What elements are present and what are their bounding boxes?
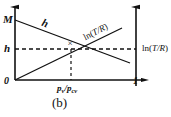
x-tick-denominator-subscript: cv <box>71 87 77 94</box>
plot-canvas <box>0 0 171 117</box>
left-axis-label-h: h <box>4 43 10 54</box>
intersection-cross-marker: × <box>67 39 73 48</box>
x-axis-tick-label-pressure-ratio: pv/pcv <box>57 84 77 93</box>
right-axis-label-ln-prefix: ln( <box>142 43 152 53</box>
figure-panel-b: M h 0 1 h ln(T/R) ln(T/R) × pv/pcv (b) <box>0 0 171 117</box>
x-axis-label-one: 1 <box>133 76 138 86</box>
figure-caption: (b) <box>52 96 67 109</box>
x-tick-numerator-subscript: v <box>62 87 65 94</box>
right-axis-label-ln-t-over-r: ln(T/R) <box>142 44 168 53</box>
right-axis-label-ln-suffix: ) <box>165 43 168 53</box>
left-axis-label-m: M <box>3 14 13 25</box>
origin-label-zero: 0 <box>4 76 9 86</box>
x-tick-numerator: p <box>57 83 62 93</box>
right-axis-label-ln-argument: T/R <box>152 43 165 53</box>
